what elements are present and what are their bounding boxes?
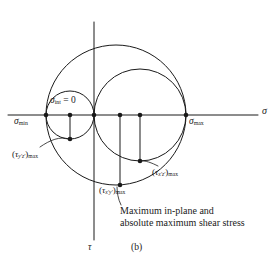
point-sigma-min — [44, 113, 49, 118]
leader-tau-xz — [140, 161, 158, 166]
label-tau-axis: τ — [88, 243, 91, 253]
point-sigma-max — [184, 113, 189, 118]
caption-max-shear: Maximum in-plane andabsolute maximum she… — [120, 205, 245, 229]
label-sigma-min: σmin — [14, 117, 28, 127]
label-sigma-int: σint = 0 — [50, 96, 76, 106]
point-center-yz — [68, 113, 73, 118]
point-center-xz — [138, 113, 143, 118]
point-sigma-int — [92, 113, 97, 118]
label-sigma-max: σmax — [189, 117, 204, 127]
label-tau-yz-max: (τy′z′)max — [12, 150, 38, 160]
point-tau-xz-max — [138, 159, 143, 164]
label-tau-xz-max: (τx′z′)max — [152, 168, 178, 178]
leader-tau-yz — [40, 138, 69, 147]
point-center-xy — [118, 113, 123, 118]
label-tau-xy-max: (τx′y′)max — [99, 186, 125, 196]
figure-reference: (b) — [131, 243, 142, 253]
point-tau-yz-max — [68, 137, 73, 142]
label-sigma-axis: σ — [262, 106, 267, 116]
